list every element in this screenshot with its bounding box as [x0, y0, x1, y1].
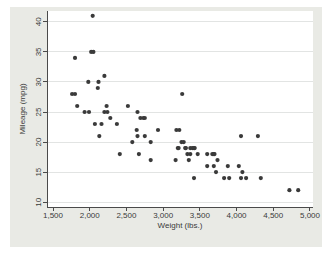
x-tick-label: 3,500	[190, 211, 211, 220]
data-point	[182, 140, 186, 144]
data-point	[102, 74, 106, 78]
data-point	[86, 80, 90, 84]
data-point	[176, 146, 180, 150]
data-point	[192, 176, 196, 180]
y-axis-title: Mileage (mpg)	[18, 57, 28, 161]
data-point	[196, 152, 200, 156]
data-point	[205, 152, 209, 156]
data-point	[227, 176, 231, 180]
y-tick-label: 15	[34, 167, 43, 176]
y-tick-label: 20	[34, 137, 43, 146]
data-point	[222, 176, 226, 180]
data-point	[256, 134, 260, 138]
x-axis-title: Weight (lbs.)	[80, 221, 280, 231]
data-point	[143, 134, 147, 138]
data-point	[214, 170, 218, 174]
data-point	[93, 122, 97, 126]
x-tick-label: 3,000	[153, 211, 174, 220]
x-tick-label: 4,000	[227, 211, 248, 220]
data-point	[96, 86, 100, 90]
data-point	[108, 116, 112, 120]
data-point	[240, 170, 244, 174]
data-point	[156, 128, 160, 132]
data-point	[177, 128, 181, 132]
data-point	[70, 92, 74, 96]
data-point	[75, 104, 79, 108]
data-point	[137, 152, 141, 156]
data-point	[215, 158, 219, 162]
data-point	[149, 158, 153, 162]
data-point	[91, 14, 95, 18]
scatter-chart: 101520253035401,5002,0002,5003,0003,5004…	[10, 7, 322, 247]
data-point	[97, 134, 101, 138]
data-point	[87, 110, 91, 114]
data-point	[126, 104, 130, 108]
data-point	[118, 152, 122, 156]
data-point	[135, 110, 139, 114]
data-point	[174, 158, 178, 162]
plot-region	[47, 11, 313, 207]
data-point	[239, 134, 243, 138]
data-point	[188, 146, 192, 150]
x-tick-label: 2,000	[80, 211, 101, 220]
x-tick-label: 4,500	[263, 211, 284, 220]
data-point	[135, 134, 139, 138]
data-point	[226, 164, 230, 168]
data-point	[192, 146, 196, 150]
data-point	[96, 80, 100, 84]
data-point	[212, 164, 216, 168]
x-tick-label: 1,500	[43, 211, 64, 220]
data-point	[149, 140, 153, 144]
data-point	[287, 188, 291, 192]
graph-card: 101520253035401,5002,0002,5003,0003,5004…	[10, 7, 322, 247]
data-point	[212, 152, 216, 156]
x-tick-label: 2,500	[116, 211, 137, 220]
data-point	[83, 110, 87, 114]
data-point	[183, 146, 187, 150]
data-point	[135, 128, 139, 132]
data-point	[185, 152, 189, 156]
data-point	[138, 116, 142, 120]
data-point	[187, 158, 191, 162]
data-point	[91, 50, 95, 54]
data-point	[115, 122, 119, 126]
data-point	[105, 104, 109, 108]
data-point	[259, 176, 263, 180]
page: { "chart_data": { "type": "scatter", "ti…	[0, 0, 331, 254]
data-point	[105, 110, 109, 114]
x-tick-label: 5,000	[300, 211, 321, 220]
y-tick-label: 35	[34, 47, 43, 56]
data-point	[205, 164, 209, 168]
data-point	[296, 188, 300, 192]
data-point	[73, 56, 77, 60]
data-point	[244, 176, 248, 180]
data-point	[180, 92, 184, 96]
y-tick-label: 40	[34, 17, 43, 26]
data-point	[237, 164, 241, 168]
y-tick-label: 30	[34, 77, 43, 86]
data-point	[99, 122, 103, 126]
data-point	[239, 176, 243, 180]
data-point	[130, 140, 134, 144]
y-tick-label: 10	[34, 197, 43, 206]
y-tick-label: 25	[34, 107, 43, 116]
